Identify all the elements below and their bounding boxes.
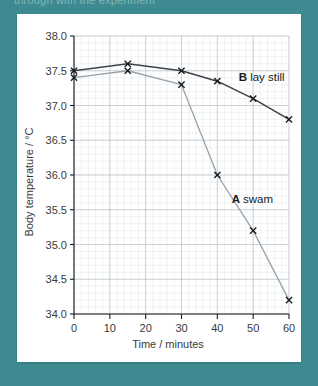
y-axis-tick-label: 36.5 [46,134,67,146]
x-axis-tick-label: 40 [211,322,223,334]
y-axis-tick-label: 38.0 [46,30,67,42]
line-chart: 34.034.535.035.536.036.537.037.538.0 010… [17,14,301,362]
x-axis-tick-label: 10 [104,322,116,334]
series-annotation-a: Aswam [232,193,273,205]
y-axis-tick-label: 37.0 [46,100,67,112]
x-axis-tick-label: 50 [247,322,259,334]
screenshot-root: through with the experiment 34.034.535.0… [0,0,318,386]
series-annotation-desc-b: lay still [250,71,285,83]
y-axis-tick-label: 36.0 [46,169,67,181]
x-axis-title: Time / minutes [132,338,204,350]
chart-svg: 34.034.535.035.536.036.537.037.538.0 010… [17,14,301,362]
series-annotation-key-a: A [232,193,240,205]
y-axis-tick-label: 37.5 [46,65,67,77]
y-axis-tick-label: 34.5 [46,273,67,285]
y-axis-title: Body temperature / °C [23,127,35,236]
x-axis-tick-label: 60 [283,322,295,334]
series-annotation-key-b: B [239,71,247,83]
x-axis-tick-label: 0 [71,322,77,334]
cutoff-caption-text: through with the experiment [14,0,304,6]
x-axis-tick-labels: 0102030405060 [71,322,295,334]
y-axis-tick-label: 35.5 [46,204,67,216]
y-axis-tick-labels: 34.034.535.035.536.036.537.037.538.0 [46,30,67,320]
series-annotation-desc-a: swam [243,193,273,205]
y-axis-tick-label: 34.0 [46,308,67,320]
series-annotation-b: Blay still [239,71,285,83]
figure-card: 34.034.535.035.536.036.537.037.538.0 010… [17,14,301,362]
x-axis-tick-label: 20 [140,322,152,334]
y-axis-tick-label: 35.0 [46,239,67,251]
x-axis-tick-label: 30 [175,322,187,334]
